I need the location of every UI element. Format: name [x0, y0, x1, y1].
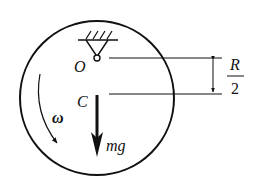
distance-denominator: 2	[231, 80, 239, 97]
pivot-label: O	[74, 58, 86, 75]
distance-numerator: R	[229, 56, 240, 73]
center-label: C	[77, 93, 88, 110]
weight-label: mg	[106, 137, 126, 155]
pivot-pin	[94, 55, 100, 61]
angular-velocity-label: ω	[52, 109, 64, 126]
disk-diagram: O R 2 C mg ω	[0, 0, 260, 190]
weight-arrow	[91, 95, 103, 157]
fixed-support-icon	[78, 31, 118, 61]
